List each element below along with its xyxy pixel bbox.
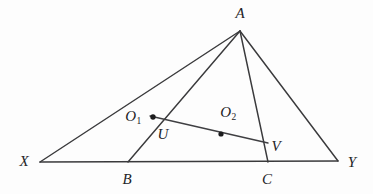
point-label-x: X [19,154,28,169]
point-dot-o1 [150,114,155,119]
point-dot-o2 [218,131,223,136]
point-label-o1: O1 [125,109,141,124]
point-label-o2-main: O [220,104,231,120]
segment-side-xa [40,31,240,162]
point-label-c: C [262,172,272,187]
segment-cevian-ab [128,31,240,162]
point-label-y: Y [348,155,356,170]
point-label-v: V [271,139,280,154]
figure-canvas [0,0,373,194]
point-label-u: U [158,127,169,142]
point-label-o2: O2 [220,105,236,120]
point-label-o1-sub: 1 [137,116,142,126]
geometry-figure: A X Y B C U V O1 O2 [0,0,373,194]
segment-side-ay [240,31,338,161]
point-label-o1-main: O [125,108,136,124]
point-label-a: A [235,6,244,21]
segment-base-xy [40,161,338,162]
point-label-b: B [122,172,131,187]
point-label-o2-sub: 2 [232,112,237,122]
